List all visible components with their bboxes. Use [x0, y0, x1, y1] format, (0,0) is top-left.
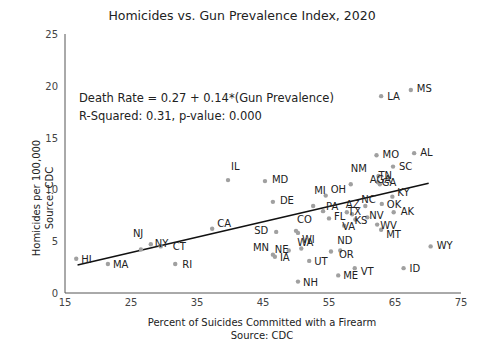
point-label-sd: SD [254, 225, 268, 236]
data-point-nh [296, 279, 300, 283]
point-label-mn: MN [253, 242, 269, 253]
data-point-id [401, 266, 405, 270]
point-label-id: ID [410, 263, 421, 274]
point-label-ne: NE [275, 244, 289, 255]
data-point-ut [307, 259, 311, 263]
point-label-la: LA [387, 91, 400, 102]
data-point-hi [74, 257, 78, 261]
point-label-nd: ND [337, 235, 352, 246]
y-axis-label: Homicides per 100,000 [30, 123, 43, 273]
point-label-nj: NJ [133, 228, 143, 239]
x-tick-label: 35 [191, 297, 204, 308]
x-tick-label: 55 [323, 297, 336, 308]
regression-equation: Death Rate = 0.27 + 0.14*(Gun Prevalence… [79, 89, 334, 107]
point-label-sc: SC [399, 161, 412, 172]
point-label-nh: NH [303, 277, 318, 288]
data-point-me [336, 273, 340, 277]
data-point-de [271, 200, 275, 204]
point-label-vt: VT [361, 266, 375, 277]
data-point-ak [391, 210, 395, 214]
data-point-nm [349, 182, 353, 186]
point-label-al: AL [420, 147, 433, 158]
x-axis-title: Percent of Suicides Committed with a Fir… [64, 316, 460, 342]
point-label-ms: MS [417, 83, 432, 94]
data-point-il [226, 178, 230, 182]
x-axis-label: Percent of Suicides Committed with a Fir… [64, 316, 460, 329]
point-label-ky: KY [397, 187, 410, 198]
data-point-ri [173, 262, 177, 266]
point-label-mo: MO [383, 149, 400, 160]
x-tick-label: 25 [125, 297, 138, 308]
point-label-md: MD [272, 174, 289, 185]
point-label-co: CO [297, 214, 312, 225]
y-axis-source: Source: CDC [43, 123, 56, 273]
point-label-ri: RI [182, 259, 192, 270]
data-point-fl [327, 216, 331, 220]
data-point-wv [375, 222, 379, 226]
x-axis-source: Source: CDC [64, 329, 460, 342]
point-label-ok: OK [387, 199, 402, 210]
point-label-nc: NC [361, 194, 375, 205]
point-label-wa: WA [297, 237, 313, 248]
point-label-wy: WY [437, 240, 454, 251]
data-point-mo [374, 153, 378, 157]
point-label-ak: AK [401, 206, 415, 217]
data-point-ny [149, 242, 153, 246]
point-label-ma: MA [113, 259, 129, 270]
point-label-aga: AGA [370, 174, 391, 185]
point-label-oh: OH [331, 184, 346, 195]
data-point-md [263, 179, 267, 183]
point-label-or: OR [339, 249, 354, 260]
data-point-sc [391, 164, 395, 168]
x-tick-label: 45 [257, 297, 270, 308]
data-point-ok [380, 202, 384, 206]
data-point-ia [273, 255, 277, 259]
point-label-ca: CA [217, 218, 231, 229]
data-point-sd [274, 230, 278, 234]
data-point-ca [210, 227, 214, 231]
scatter-plot: 152535455565750510152025 HIMANJNYCTRICAI… [0, 0, 484, 346]
data-point-wi [296, 231, 300, 235]
regression-annotation: Death Rate = 0.27 + 0.14*(Gun Prevalence… [79, 89, 334, 125]
x-tick-label: 15 [59, 297, 72, 308]
point-label-hi: HI [81, 254, 91, 265]
point-label-va: VA [342, 221, 355, 232]
x-tick-label: 75 [455, 297, 468, 308]
data-point-la [379, 94, 383, 98]
y-tick-label: 20 [45, 81, 58, 92]
data-point-wy [428, 244, 432, 248]
point-label-mi: MI [314, 185, 326, 196]
point-label-il: IL [231, 161, 240, 172]
data-point-ma [106, 262, 110, 266]
data-point-al [412, 151, 416, 155]
point-label-de: DE [280, 195, 294, 206]
y-tick-label: 25 [45, 29, 58, 40]
data-point-ms [409, 88, 413, 92]
data-point-pa [321, 209, 325, 213]
data-point-or [329, 249, 333, 253]
point-label-me: ME [343, 270, 358, 281]
data-point-mi [311, 204, 315, 208]
point-label-nm: NM [351, 163, 367, 174]
point-label-mt: MT [386, 229, 402, 240]
regression-stats: R-Squared: 0.31, p-value: 0.000 [79, 107, 334, 125]
x-tick-label: 65 [389, 297, 402, 308]
y-tick-label: 0 [52, 288, 58, 299]
point-label-ut: UT [314, 256, 328, 267]
point-label-ks: KS [354, 215, 367, 226]
data-point-nj [139, 247, 143, 251]
point-label-ct: CT [173, 241, 187, 252]
y-axis-title: Homicides per 100,000 Source: CDC [30, 123, 56, 273]
point-label-ny: NY [155, 238, 169, 249]
